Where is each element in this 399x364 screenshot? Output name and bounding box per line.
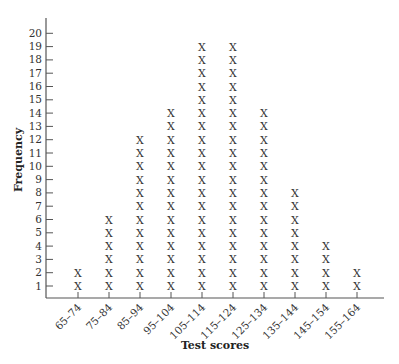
y-tick-label: 17 (29, 67, 42, 79)
x-marker: X (198, 120, 206, 133)
y-tick-label: 10 (29, 160, 42, 172)
x-marker: X (260, 160, 268, 173)
x-marker: X (136, 280, 144, 293)
x-marker: X (167, 134, 175, 147)
x-marker: X (260, 120, 268, 133)
x-marker: X (229, 134, 237, 147)
x-marker: X (198, 54, 206, 67)
x-marker: X (136, 134, 144, 147)
x-marker: X (229, 107, 237, 120)
x-marker: X (198, 174, 206, 187)
x-marker: X (322, 240, 330, 253)
x-marker: X (198, 187, 206, 200)
x-marker: X (229, 147, 237, 160)
y-tick-label: 3 (35, 253, 42, 265)
x-marker: X (229, 174, 237, 187)
x-marker: X (260, 200, 268, 213)
x-marker: X (136, 147, 144, 160)
x-marker: X (260, 147, 268, 160)
x-marker: X (136, 253, 144, 266)
x-marker: X (198, 41, 206, 54)
x-marker: X (136, 214, 144, 227)
x-marker: X (167, 120, 175, 133)
dot-plot-chart: 1234567891011121314151617181920 65–7475–… (0, 0, 399, 364)
y-tick-label: 11 (29, 147, 42, 159)
y-tick-label: 15 (29, 93, 42, 105)
y-tick-label: 20 (29, 27, 42, 39)
x-marker: X (105, 253, 113, 266)
y-axis: 1234567891011121314151617181920 (29, 18, 53, 298)
x-marker: X (198, 200, 206, 213)
x-marker: X (229, 267, 237, 280)
x-marker: X (353, 267, 361, 280)
x-marker: X (198, 67, 206, 80)
x-marker: X (229, 81, 237, 94)
x-marker: X (136, 227, 144, 240)
x-marker: X (229, 280, 237, 293)
x-marker: X (74, 267, 82, 280)
x-marker: X (136, 160, 144, 173)
x-tick-label: 65–74 (52, 301, 83, 332)
x-marker: X (167, 240, 175, 253)
x-marker: X (167, 107, 175, 120)
x-marker: X (260, 240, 268, 253)
x-marker: X (167, 267, 175, 280)
x-marker: X (260, 267, 268, 280)
x-marker: X (105, 267, 113, 280)
y-tick-label: 13 (29, 120, 42, 132)
x-marker: X (198, 81, 206, 94)
x-marker: X (291, 214, 299, 227)
y-tick-label: 7 (35, 200, 42, 212)
y-tick-label: 5 (35, 226, 42, 238)
y-tick-label: 2 (35, 266, 42, 278)
y-axis-title: Frequency (12, 127, 25, 192)
y-tick-label: 1 (35, 280, 42, 292)
x-marker: X (291, 267, 299, 280)
x-marker: X (198, 134, 206, 147)
x-axis-title: Test scores (181, 339, 249, 352)
x-marker: X (105, 227, 113, 240)
x-marker: X (291, 280, 299, 293)
x-marker: X (260, 214, 268, 227)
x-marker: X (167, 214, 175, 227)
x-marker: X (198, 107, 206, 120)
x-marker: X (105, 240, 113, 253)
x-marker: X (322, 280, 330, 293)
x-marker: X (229, 41, 237, 54)
x-marker: X (198, 267, 206, 280)
data-markers: XXXXXXXXXXXXXXXXXXXXXXXXXXXXXXXXXXXXXXXX… (74, 41, 361, 293)
x-marker: X (260, 174, 268, 187)
x-marker: X (167, 280, 175, 293)
x-marker: X (229, 240, 237, 253)
x-marker: X (229, 200, 237, 213)
y-tick-label: 4 (35, 240, 42, 252)
y-tick-label: 14 (29, 107, 43, 119)
y-tick-label: 6 (35, 213, 42, 225)
x-marker: X (229, 67, 237, 80)
x-marker: X (198, 240, 206, 253)
x-marker: X (291, 240, 299, 253)
x-marker: X (167, 187, 175, 200)
y-tick-label: 12 (29, 133, 42, 145)
x-marker: X (229, 253, 237, 266)
x-marker: X (105, 280, 113, 293)
x-marker: X (291, 227, 299, 240)
x-marker: X (167, 200, 175, 213)
x-marker: X (260, 134, 268, 147)
x-marker: X (229, 214, 237, 227)
x-marker: X (260, 227, 268, 240)
y-tick-label: 19 (29, 40, 42, 52)
x-marker: X (167, 147, 175, 160)
x-marker: X (198, 280, 206, 293)
x-marker: X (136, 267, 144, 280)
x-marker: X (322, 267, 330, 280)
x-marker: X (198, 94, 206, 107)
x-marker: X (74, 280, 82, 293)
x-marker: X (260, 280, 268, 293)
x-marker: X (229, 54, 237, 67)
x-marker: X (105, 214, 113, 227)
y-tick-label: 9 (35, 173, 42, 185)
x-marker: X (167, 174, 175, 187)
x-marker: X (136, 200, 144, 213)
y-tick-label: 18 (29, 53, 42, 65)
